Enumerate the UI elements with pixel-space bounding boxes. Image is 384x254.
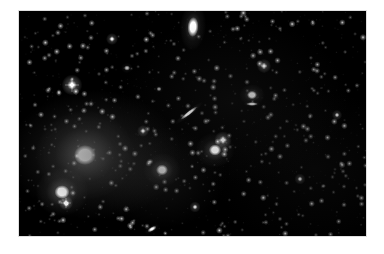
star-field-canvas	[19, 11, 366, 236]
sky-frame	[19, 11, 366, 236]
astronomy-image-page	[0, 0, 384, 254]
